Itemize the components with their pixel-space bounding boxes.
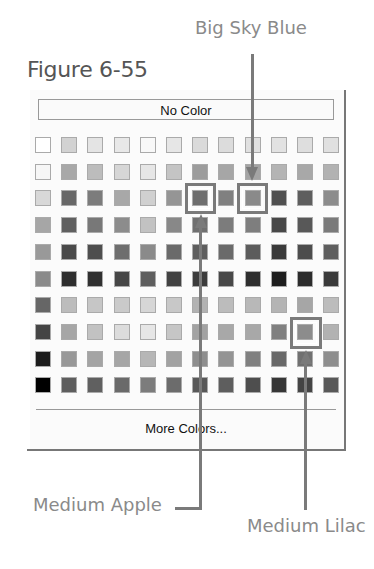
color-swatch[interactable] (140, 297, 156, 313)
color-swatch[interactable] (35, 271, 51, 287)
color-swatch[interactable] (323, 164, 339, 180)
more-colors-button[interactable]: More Colors... (36, 421, 336, 436)
color-swatch[interactable] (87, 377, 103, 393)
color-swatch[interactable] (323, 190, 339, 206)
color-swatch[interactable] (245, 324, 261, 340)
color-swatch[interactable] (271, 377, 287, 393)
color-swatch[interactable] (166, 190, 182, 206)
color-swatch[interactable] (61, 351, 77, 367)
color-swatch[interactable] (297, 244, 313, 260)
color-swatch[interactable] (245, 351, 261, 367)
color-swatch[interactable] (140, 324, 156, 340)
color-swatch[interactable] (271, 137, 287, 153)
color-swatch[interactable] (87, 324, 103, 340)
color-swatch[interactable] (61, 271, 77, 287)
color-swatch[interactable] (87, 244, 103, 260)
color-swatch[interactable] (297, 217, 313, 233)
color-swatch[interactable] (87, 190, 103, 206)
color-swatch[interactable] (218, 244, 234, 260)
color-swatch[interactable] (271, 271, 287, 287)
color-swatch[interactable] (192, 137, 208, 153)
color-swatch[interactable] (61, 377, 77, 393)
color-swatch[interactable] (87, 137, 103, 153)
color-swatch[interactable] (323, 271, 339, 287)
color-swatch[interactable] (271, 351, 287, 367)
color-swatch[interactable] (323, 351, 339, 367)
no-color-button[interactable]: No Color (38, 99, 334, 120)
color-swatch[interactable] (245, 377, 261, 393)
color-swatch[interactable] (114, 190, 130, 206)
color-swatch[interactable] (87, 271, 103, 287)
color-swatch[interactable] (61, 297, 77, 313)
color-swatch[interactable] (35, 244, 51, 260)
color-swatch[interactable] (192, 164, 208, 180)
color-swatch[interactable] (140, 217, 156, 233)
color-swatch[interactable] (297, 190, 313, 206)
color-swatch[interactable] (166, 297, 182, 313)
color-swatch[interactable] (114, 217, 130, 233)
color-swatch[interactable] (166, 324, 182, 340)
color-swatch[interactable] (140, 164, 156, 180)
color-swatch[interactable] (218, 137, 234, 153)
color-swatch[interactable] (323, 297, 339, 313)
color-swatch[interactable] (166, 271, 182, 287)
color-swatch[interactable] (218, 164, 234, 180)
color-swatch[interactable] (61, 164, 77, 180)
color-swatch[interactable] (218, 190, 234, 206)
color-swatch[interactable] (87, 217, 103, 233)
color-swatch[interactable] (35, 164, 51, 180)
color-swatch[interactable] (166, 244, 182, 260)
color-swatch[interactable] (140, 190, 156, 206)
color-swatch[interactable] (140, 351, 156, 367)
color-swatch[interactable] (218, 324, 234, 340)
color-swatch[interactable] (271, 244, 287, 260)
color-swatch[interactable] (87, 351, 103, 367)
color-swatch[interactable] (35, 217, 51, 233)
color-swatch[interactable] (114, 324, 130, 340)
color-swatch[interactable] (140, 271, 156, 287)
color-swatch[interactable] (87, 164, 103, 180)
color-swatch[interactable] (140, 377, 156, 393)
color-swatch[interactable] (140, 244, 156, 260)
color-swatch[interactable] (114, 137, 130, 153)
color-swatch[interactable] (61, 217, 77, 233)
color-swatch[interactable] (61, 244, 77, 260)
color-swatch[interactable] (114, 377, 130, 393)
color-swatch[interactable] (166, 377, 182, 393)
color-swatch[interactable] (87, 297, 103, 313)
color-swatch[interactable] (323, 377, 339, 393)
color-swatch[interactable] (323, 244, 339, 260)
color-swatch[interactable] (166, 217, 182, 233)
color-swatch[interactable] (114, 297, 130, 313)
color-swatch[interactable] (297, 271, 313, 287)
color-swatch[interactable] (35, 190, 51, 206)
color-swatch[interactable] (166, 351, 182, 367)
color-swatch[interactable] (35, 377, 51, 393)
color-swatch[interactable] (35, 351, 51, 367)
color-swatch[interactable] (323, 217, 339, 233)
color-swatch[interactable] (323, 324, 339, 340)
color-swatch[interactable] (35, 297, 51, 313)
color-swatch[interactable] (297, 297, 313, 313)
color-swatch[interactable] (114, 164, 130, 180)
color-swatch[interactable] (271, 217, 287, 233)
color-swatch[interactable] (245, 244, 261, 260)
color-swatch[interactable] (218, 271, 234, 287)
color-swatch[interactable] (218, 297, 234, 313)
color-swatch[interactable] (166, 164, 182, 180)
color-swatch[interactable] (271, 190, 287, 206)
color-swatch[interactable] (297, 137, 313, 153)
color-swatch[interactable] (271, 164, 287, 180)
color-swatch[interactable] (245, 297, 261, 313)
color-swatch[interactable] (114, 351, 130, 367)
color-swatch[interactable] (245, 271, 261, 287)
color-swatch[interactable] (35, 137, 51, 153)
color-swatch[interactable] (61, 324, 77, 340)
color-swatch[interactable] (114, 271, 130, 287)
color-swatch[interactable] (218, 217, 234, 233)
color-swatch[interactable] (218, 351, 234, 367)
color-swatch[interactable] (114, 244, 130, 260)
color-swatch[interactable] (271, 297, 287, 313)
color-swatch[interactable] (140, 137, 156, 153)
color-swatch[interactable] (271, 324, 287, 340)
